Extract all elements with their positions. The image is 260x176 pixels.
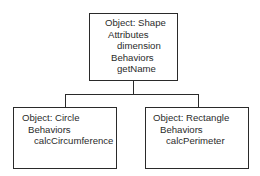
shape-attributes-label: Attributes — [108, 29, 149, 40]
circle-behavior-calccircumference: calcCircumference — [34, 135, 113, 146]
rectangle-behaviors-label: Behaviors — [160, 124, 203, 135]
rectangle-behavior-calcperimeter: calcPerimeter — [166, 135, 225, 146]
shape-behaviors-label: Behaviors — [111, 52, 154, 63]
circle-behaviors-label: Behaviors — [28, 124, 71, 135]
connector-horizontal — [65, 94, 199, 95]
rectangle-object-title: Object: Rectangle — [153, 112, 229, 123]
connector-parent-vertical — [133, 80, 134, 95]
shape-object-title: Object: Shape — [105, 17, 166, 28]
shape-attribute-dimension: dimension — [117, 40, 161, 51]
circle-object-title: Object: Circle — [22, 112, 80, 123]
shape-behavior-getname: getName — [117, 63, 156, 74]
connector-left-vertical — [65, 94, 66, 108]
connector-right-vertical — [198, 94, 199, 108]
